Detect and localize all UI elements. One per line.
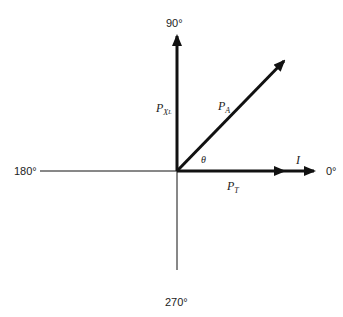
- label-p-xl: PXL: [156, 102, 172, 114]
- label-p-t: PT: [227, 180, 239, 192]
- label-theta: θ: [201, 155, 206, 165]
- axis-label-0: 0°: [326, 166, 337, 177]
- axis-label-180: 180°: [14, 166, 37, 177]
- vector-p-t-arrowhead: [274, 166, 286, 176]
- phasor-diagram-canvas: [0, 0, 343, 317]
- vector-p-a: [177, 61, 284, 171]
- label-p-a: PA: [218, 100, 230, 112]
- label-i: I: [296, 154, 300, 166]
- axis-label-270: 270°: [165, 297, 188, 308]
- axis-label-90: 90°: [166, 18, 183, 29]
